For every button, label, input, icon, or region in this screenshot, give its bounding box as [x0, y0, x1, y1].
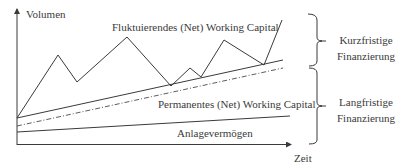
short-term-line1: Kurzfristige [330, 34, 402, 46]
long-term-line1: Langfristige [330, 96, 402, 108]
permanent-label: Permanentes (Net) Working Capital [158, 98, 315, 110]
short-term-bracket [308, 14, 322, 66]
long-term-line2: Finanzierung [330, 112, 402, 124]
x-axis-label: Zeit [294, 152, 312, 164]
fixed-assets-label: Anlagevermögen [177, 127, 253, 139]
short-term-line2: Finanzierung [330, 50, 402, 62]
short-term-financing-label: Kurzfristige Finanzierung [330, 34, 402, 62]
financing-boundary-line [17, 68, 283, 126]
long-term-financing-label: Langfristige Finanzierung [330, 96, 402, 124]
y-axis-label: Volumen [26, 8, 66, 20]
fluctuating-label: Fluktuierendes (Net) Working Capital [112, 21, 279, 33]
